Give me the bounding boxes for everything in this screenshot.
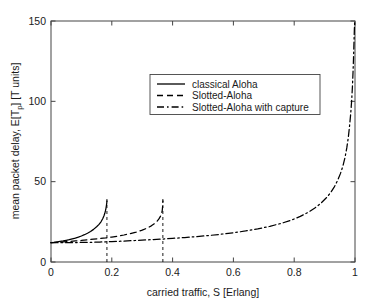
x-tick-label: 1 bbox=[352, 266, 358, 278]
x-tick-label: 0 bbox=[48, 266, 54, 278]
x-tick-label: 0.6 bbox=[226, 266, 241, 278]
y-tick-label: 100 bbox=[28, 95, 46, 107]
line-chart: 00.20.40.60.81 050100150 carried traffic… bbox=[0, 0, 369, 308]
y-tick-label: 150 bbox=[28, 15, 46, 27]
x-tick-label: 0.8 bbox=[287, 266, 302, 278]
y-tick-label: 50 bbox=[34, 175, 46, 187]
legend-label: Slotted-Aloha bbox=[192, 90, 252, 101]
legend-label: classical Aloha bbox=[192, 79, 258, 90]
x-tick-label: 0.2 bbox=[104, 266, 119, 278]
legend-label: Slotted-Aloha with capture bbox=[192, 102, 309, 113]
figure-container: 00.20.40.60.81 050100150 carried traffic… bbox=[0, 0, 369, 308]
plot-frame bbox=[51, 21, 355, 262]
chart-legend: classical AlohaSlotted-AlohaSlotted-Aloh… bbox=[150, 75, 320, 115]
y-tick-label: 0 bbox=[40, 256, 46, 268]
x-axis-title: carried traffic, S [Erlang] bbox=[147, 286, 260, 298]
x-tick-label: 0.4 bbox=[165, 266, 180, 278]
